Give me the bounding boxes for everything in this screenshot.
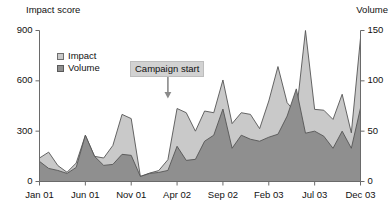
left-axis-tick-label: 600 xyxy=(0,74,33,85)
right-axis-tick-label: 50 xyxy=(368,125,379,136)
x-axis-tick-label: Dec 03 xyxy=(331,189,391,200)
left-axis-tick-label: 900 xyxy=(0,24,33,35)
left-axis-tick-label: 0 xyxy=(0,175,33,186)
annotation-arrow-layer xyxy=(165,76,172,99)
campaign-start-annotation: Campaign start xyxy=(130,61,204,77)
impact-volume-area-chart: Impact score Volume Impact Volume Campai… xyxy=(0,0,392,213)
right-axis-tick-label: 150 xyxy=(368,24,384,35)
right-axis-tick-label: 0 xyxy=(368,175,373,186)
legend-label-impact: Impact xyxy=(68,50,97,62)
left-axis-tick-label: 300 xyxy=(0,125,33,136)
impact-swatch-icon xyxy=(57,53,64,60)
chart-legend: Impact Volume xyxy=(57,50,100,74)
legend-label-volume: Volume xyxy=(68,62,100,74)
plot-canvas xyxy=(0,0,392,213)
legend-item-impact: Impact xyxy=(57,50,100,62)
volume-swatch-icon xyxy=(57,65,64,72)
right-axis-tick-label: 100 xyxy=(368,74,384,85)
legend-item-volume: Volume xyxy=(57,62,100,74)
annotation-arrow-head-icon xyxy=(165,92,172,99)
